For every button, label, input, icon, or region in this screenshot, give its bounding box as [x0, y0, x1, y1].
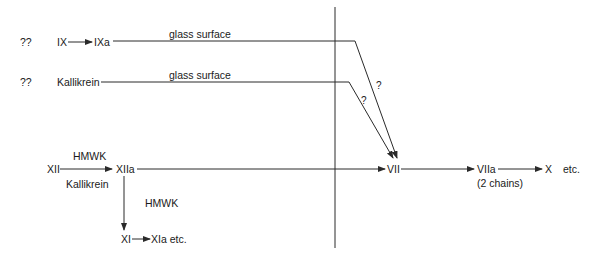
- row2-question-label: ?: [361, 95, 367, 107]
- coagulation-diagram: ?? IX IXa glass surface ? ?? Kallikrein …: [0, 0, 601, 262]
- hmwk-branch-label: HMWK: [145, 197, 178, 209]
- kallikrein-cofactor-label: Kallikrein: [66, 178, 109, 190]
- path-kallikrein-to-vii: [101, 82, 393, 158]
- kallikrein-source-label: Kallikrein: [57, 76, 100, 88]
- factor-vii-label: VII: [387, 163, 400, 175]
- factor-xia-label: XIa etc.: [151, 233, 187, 245]
- row2-glass-surface-label: glass surface: [169, 69, 231, 81]
- row1-question-label: ?: [376, 80, 382, 92]
- factor-xi-label: XI: [121, 233, 131, 245]
- hmwk-top-label: HMWK: [73, 150, 106, 162]
- factor-xii-label: XII: [47, 163, 60, 175]
- diagram-lines: [0, 0, 601, 262]
- factor-viia-label: VIIa: [477, 163, 496, 175]
- row2-unknown-label: ??: [20, 76, 32, 88]
- factor-x-label: X: [545, 163, 552, 175]
- factor-xiia-label: XIIa: [116, 163, 135, 175]
- row3-etc-label: etc.: [563, 163, 580, 175]
- row1-unknown-label: ??: [20, 36, 32, 48]
- two-chains-note: (2 chains): [477, 177, 523, 189]
- factor-ix-label: IX: [57, 36, 67, 48]
- factor-ixa-label: IXa: [94, 36, 110, 48]
- row1-glass-surface-label: glass surface: [169, 28, 231, 40]
- path-ixa-to-vii: [113, 41, 397, 158]
